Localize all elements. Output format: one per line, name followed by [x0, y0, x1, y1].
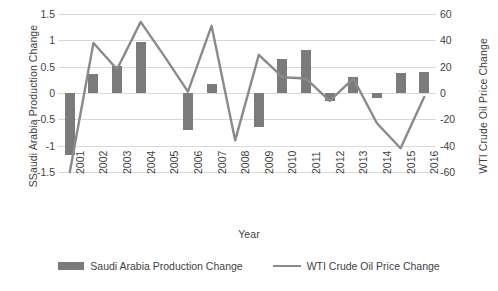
- line-series-wti: [58, 14, 436, 172]
- y-axis-left-tick-label: 0.5: [40, 61, 55, 72]
- x-axis-tick-2006: 2006: [192, 151, 204, 174]
- x-axis-tick-2003: 2003: [121, 151, 133, 174]
- x-axis-tick-2008: 2008: [239, 151, 251, 174]
- x-axis-tick-2007: 2007: [216, 151, 228, 174]
- y-axis-right-tick-label: -40: [440, 140, 455, 151]
- bar-swatch-icon: [58, 262, 84, 270]
- x-axis-tick-2002: 2002: [97, 151, 109, 174]
- wti-price-line: [70, 22, 424, 172]
- line-swatch-icon: [273, 265, 301, 267]
- x-axis-tick-2005: 2005: [168, 151, 180, 174]
- legend-item-saudi-production: Saudi Arabia Production Change: [58, 260, 242, 272]
- x-axis-tick-2004: 2004: [145, 151, 157, 174]
- y-axis-right-tick-label: 0: [440, 88, 446, 99]
- y-axis-right-title: WTI Crude Oil Price Change: [477, 21, 489, 191]
- legend-label-saudi-production: Saudi Arabia Production Change: [90, 260, 242, 272]
- y-axis-right-tick-label: -60: [440, 167, 455, 178]
- y-axis-left-tick-label: 1: [49, 35, 55, 46]
- x-axis-tick-2011: 2011: [310, 151, 322, 174]
- y-axis-left-tick-label: 1.5: [40, 9, 55, 20]
- y-axis-left-tick-label: 0: [49, 88, 55, 99]
- x-axis-tick-2016: 2016: [428, 151, 440, 174]
- y-axis-right-tick-label: 40: [440, 35, 452, 46]
- x-axis-tick-2014: 2014: [381, 151, 393, 174]
- y-axis-right-tick-label: -20: [440, 114, 455, 125]
- chart-legend: Saudi Arabia Production Change WTI Crude…: [0, 256, 498, 276]
- x-axis-tick-2010: 2010: [286, 151, 298, 174]
- x-axis-title: Year: [0, 228, 498, 240]
- y-axis-right-ticks: 6040200-20-40-60: [440, 14, 466, 172]
- y-axis-right-tick-label: 20: [440, 61, 452, 72]
- y-axis-left-ticks: 1.510.50-0.5-1-1.5: [29, 14, 55, 172]
- x-axis-tick-2001: 2001: [74, 151, 86, 174]
- chart-container: SSaudi Arabia Production Change WTI Crud…: [0, 0, 498, 291]
- legend-label-wti-price: WTI Crude Oil Price Change: [307, 260, 440, 272]
- y-axis-left-tick-label: -1: [46, 140, 55, 151]
- y-axis-left-tick-label: -1.5: [37, 167, 55, 178]
- plot-area: [58, 14, 436, 172]
- x-axis-tick-2015: 2015: [405, 151, 417, 174]
- y-axis-right-tick-label: 60: [440, 9, 452, 20]
- x-axis-ticks: 2001200220032004200520062007200820092010…: [58, 174, 436, 224]
- legend-item-wti-price: WTI Crude Oil Price Change: [273, 260, 440, 272]
- y-axis-left-tick-label: -0.5: [37, 114, 55, 125]
- x-axis-tick-2013: 2013: [357, 151, 369, 174]
- x-axis-tick-2012: 2012: [334, 151, 346, 174]
- x-axis-tick-2009: 2009: [263, 151, 275, 174]
